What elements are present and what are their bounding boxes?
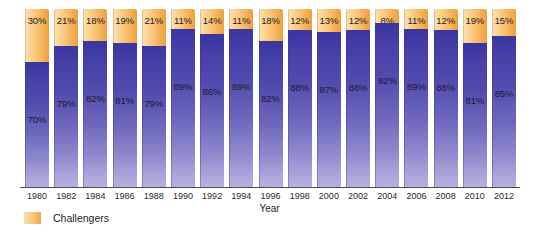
bar-segment-incumbents: 89% <box>404 29 428 187</box>
bar-segment-incumbents: 70% <box>25 62 49 187</box>
legend-swatch-challengers <box>24 212 41 224</box>
chart-legend: Challengers <box>24 212 109 224</box>
x-tick-label: 2004 <box>375 190 399 204</box>
bar-segment-incumbents: 88% <box>288 30 312 187</box>
bar-segment-incumbents: 87% <box>317 32 341 187</box>
bar-segment-challengers: 11% <box>171 9 195 29</box>
x-tick-label: 1984 <box>83 190 107 204</box>
bar-segment-incumbents: 92% <box>375 23 399 187</box>
bar-label-incumbents: 88% <box>288 83 312 93</box>
stacked-bar-chart: 30%70%21%79%18%82%19%81%21%79%11%89%14%8… <box>0 0 539 232</box>
bar-label-incumbents: 89% <box>404 82 428 92</box>
bar-segment-incumbents: 79% <box>54 46 78 187</box>
bar-label-incumbents: 88% <box>434 83 458 93</box>
bar-column: 11%89% <box>404 9 428 187</box>
x-tick-label: 1986 <box>113 190 137 204</box>
legend-label-challengers: Challengers <box>53 212 109 224</box>
bar-column: 18%82% <box>83 9 107 187</box>
bar-label-incumbents: 92% <box>375 76 399 86</box>
bar-label-incumbents: 81% <box>463 96 487 106</box>
bar-label-challengers: 12% <box>288 16 312 26</box>
x-tick-label-text: 2012 <box>487 190 521 203</box>
bar-segment-incumbents: 81% <box>463 43 487 187</box>
bar-label-challengers: 12% <box>346 16 370 26</box>
bar-label-incumbents: 89% <box>171 82 195 92</box>
bar-label-challengers: 21% <box>142 16 166 26</box>
bar-column: 15%85% <box>492 9 516 187</box>
bar-label-challengers: 14% <box>200 16 224 26</box>
bar-segment-challengers: 11% <box>229 9 253 29</box>
x-tick-label: 1990 <box>171 190 195 204</box>
bar-label-challengers: 12% <box>434 16 458 26</box>
bar-segment-incumbents: 86% <box>200 34 224 187</box>
bar-column: 11%89% <box>229 9 253 187</box>
bar-column: 18%82% <box>259 9 283 187</box>
bar-label-challengers: 21% <box>54 16 78 26</box>
bar-label-incumbents: 88% <box>346 83 370 93</box>
bar-column: 13%87% <box>317 9 341 187</box>
bar-segment-incumbents: 85% <box>492 36 516 187</box>
bar-column: 19%81% <box>463 9 487 187</box>
bar-segment-challengers: 13% <box>317 9 341 32</box>
bar-segment-challengers: 21% <box>142 9 166 46</box>
bar-column: 14%86% <box>200 9 224 187</box>
bar-segment-challengers: 12% <box>288 9 312 30</box>
bar-segment-incumbents: 79% <box>142 46 166 187</box>
x-tick-label: 2002 <box>346 190 370 204</box>
bar-label-incumbents: 79% <box>142 99 166 109</box>
bar-column: 19%81% <box>113 9 137 187</box>
bar-column: 12%88% <box>288 9 312 187</box>
x-tick-label: 1996 <box>259 190 283 204</box>
bar-label-incumbents: 89% <box>229 82 253 92</box>
bar-segment-incumbents: 82% <box>259 41 283 187</box>
x-tick-label: 1980 <box>25 190 49 204</box>
bar-label-challengers: 15% <box>492 16 516 26</box>
bar-segment-challengers: 18% <box>83 9 107 41</box>
x-tick-label: 1988 <box>142 190 166 204</box>
bar-label-incumbents: 82% <box>259 94 283 104</box>
bar-segment-challengers: 8% <box>375 9 399 23</box>
bar-segment-incumbents: 88% <box>346 30 370 187</box>
bar-label-incumbents: 85% <box>492 89 516 99</box>
bar-segment-challengers: 12% <box>346 9 370 30</box>
x-tick-label: 2010 <box>463 190 487 204</box>
bar-segment-incumbents: 81% <box>113 43 137 187</box>
bar-segment-challengers: 11% <box>404 9 428 29</box>
bar-label-challengers: 11% <box>171 16 195 26</box>
x-axis-tick-labels: 1980198219841986198819901992199419961998… <box>25 190 516 204</box>
bar-segment-challengers: 15% <box>492 9 516 36</box>
bar-segment-challengers: 19% <box>113 9 137 43</box>
bar-column: 21%79% <box>142 9 166 187</box>
bar-column: 12%88% <box>434 9 458 187</box>
bar-segment-incumbents: 82% <box>83 41 107 187</box>
bar-segment-challengers: 12% <box>434 9 458 30</box>
plot-area: 30%70%21%79%18%82%19%81%21%79%11%89%14%8… <box>25 9 516 187</box>
bar-segment-incumbents: 88% <box>434 30 458 187</box>
x-tick-label: 1998 <box>288 190 312 204</box>
x-tick-label: 1994 <box>229 190 253 204</box>
bar-label-incumbents: 79% <box>54 99 78 109</box>
x-tick-label: 2012 <box>492 190 516 204</box>
x-tick-label: 2006 <box>404 190 428 204</box>
bar-label-incumbents: 82% <box>83 94 107 104</box>
bar-label-challengers: 18% <box>83 16 107 26</box>
bar-label-challengers: 19% <box>463 16 487 26</box>
bar-column: 21%79% <box>54 9 78 187</box>
bar-column: 11%89% <box>171 9 195 187</box>
bar-segment-challengers: 18% <box>259 9 283 41</box>
bar-column: 12%88% <box>346 9 370 187</box>
x-tick-label: 1992 <box>200 190 224 204</box>
bar-label-challengers: 13% <box>317 16 341 26</box>
bar-segment-challengers: 14% <box>200 9 224 34</box>
x-tick-label: 1982 <box>54 190 78 204</box>
bar-label-challengers: 30% <box>25 16 49 26</box>
x-tick-label: 2000 <box>317 190 341 204</box>
bar-label-incumbents: 81% <box>113 96 137 106</box>
bar-segment-challengers: 19% <box>463 9 487 43</box>
bar-label-incumbents: 86% <box>200 87 224 97</box>
bar-column: 30%70% <box>25 9 49 187</box>
bar-label-challengers: 18% <box>259 16 283 26</box>
bar-label-incumbents: 70% <box>25 115 49 125</box>
bar-label-challengers: 11% <box>229 16 253 26</box>
bar-label-incumbents: 87% <box>317 85 341 95</box>
